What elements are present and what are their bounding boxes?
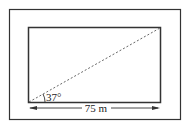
diagram-canvas: 37° 75 m	[0, 0, 191, 126]
angle-label: 37°	[46, 91, 61, 103]
width-label: 75 m	[85, 102, 108, 114]
angle-arc	[43, 94, 45, 102]
arrowhead-right-icon	[152, 106, 160, 110]
arrowhead-left-icon	[29, 106, 37, 110]
